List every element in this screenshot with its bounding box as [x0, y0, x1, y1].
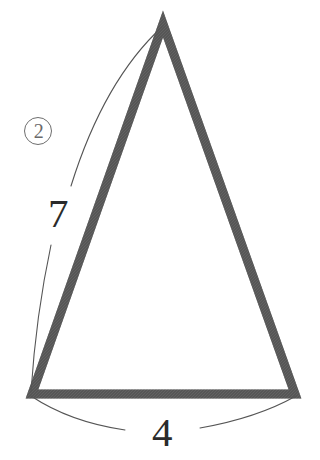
- problem-number-badge: 2: [24, 117, 54, 147]
- geometry-figure: 2 7 4: [0, 0, 320, 460]
- problem-number-label: 2: [24, 117, 54, 147]
- left-side-length-label: 7: [48, 193, 69, 234]
- base-length-label: 4: [152, 412, 173, 453]
